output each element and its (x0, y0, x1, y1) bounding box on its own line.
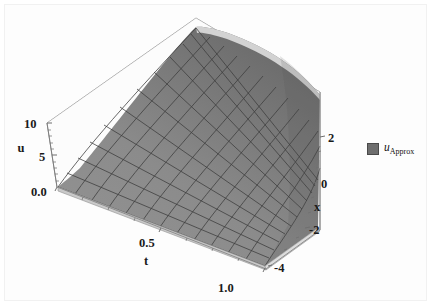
x-tick-2: 2 (328, 131, 334, 145)
legend: uApprox (367, 141, 414, 156)
u-tick-10: 10 (24, 117, 37, 131)
legend-swatch-uapprox (367, 143, 379, 155)
x-axis-label: x (314, 200, 321, 214)
surface-mesh (58, 27, 320, 270)
legend-subscript: Approx (390, 147, 414, 156)
u-axis-label: u (18, 141, 25, 155)
x-tick-neg4: -4 (274, 261, 285, 275)
t-tick-1: 1.0 (218, 281, 234, 295)
t-tick-0p5: 0.5 (139, 236, 155, 250)
u-tick-5: 5 (39, 150, 45, 164)
legend-label-uapprox: uApprox (384, 141, 414, 156)
t-axis-label: t (144, 254, 149, 268)
x-tick-0: 0 (321, 177, 327, 191)
x-tick-neg2: -2 (309, 223, 319, 237)
t-tick-0: 0.0 (31, 185, 47, 199)
plot-screenshot: 10 5 u 0.0 0.5 1.0 t 2 0 -2 -4 x uApprox (0, 0, 431, 305)
